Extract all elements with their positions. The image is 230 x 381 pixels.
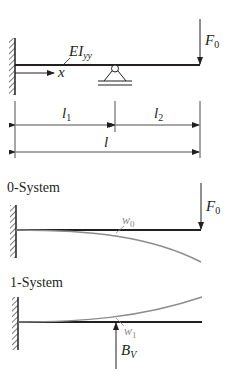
system1 [12, 297, 202, 369]
dim-l2-label: l2 [154, 106, 163, 123]
dim-l-label: l [104, 135, 108, 150]
w0-sub: 0 [130, 219, 135, 229]
x-axis-label: x [58, 65, 65, 80]
main-system [9, 19, 200, 95]
load-f0-label: F0 [205, 33, 219, 50]
deflection-w0-label: w0 [122, 214, 135, 229]
deflection-curve-w0 [16, 230, 201, 262]
fixed-wall-icon [12, 297, 18, 350]
deflection-w1-label: w1 [124, 325, 137, 340]
dim-l1-sub: 1 [66, 112, 71, 123]
beam-stiffness-base: EI [69, 43, 83, 59]
load-f0-sub: 0 [214, 39, 219, 50]
system0-title: 0-System [7, 181, 60, 195]
w1-sub: 1 [132, 330, 137, 340]
dim-l1-label: l1 [62, 106, 71, 123]
support-reaction-bv-label: BV [121, 343, 136, 360]
beam-stiffness-label: EIyy [69, 44, 92, 61]
system0-load-base: F [206, 198, 215, 214]
roller-support-icon [98, 65, 132, 85]
bv-base: B [121, 342, 130, 358]
system0-load-label: F0 [206, 199, 220, 216]
fixed-wall-icon [9, 38, 15, 95]
dim-l2-sub: 2 [158, 112, 163, 123]
deflection-curve-w1 [18, 297, 202, 322]
w0-base: w [122, 213, 130, 227]
load-f0-base: F [205, 32, 214, 48]
w1-base: w [124, 324, 132, 338]
system1-title: 1-System [10, 276, 63, 290]
bv-sub: V [130, 349, 136, 360]
system0-load-sub: 0 [215, 205, 220, 216]
beam-stiffness-sub: yy [83, 50, 92, 61]
fixed-wall-icon [10, 205, 16, 258]
